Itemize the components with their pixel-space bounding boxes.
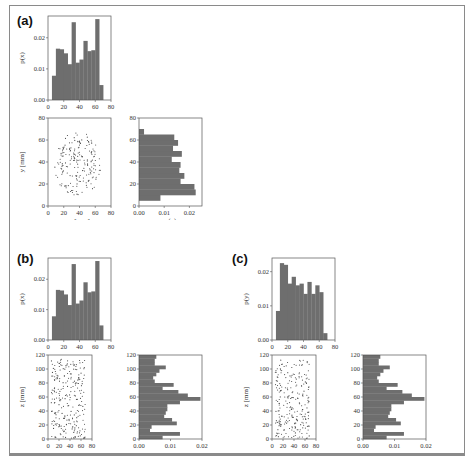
scatter-point [58, 426, 59, 427]
scatter-point [302, 436, 303, 437]
scatter-point [63, 386, 64, 387]
scatter-point [70, 163, 71, 164]
histogram-bar [139, 376, 153, 380]
histogram-bar [363, 397, 424, 401]
scatter-point [62, 152, 63, 153]
scatter-point [86, 187, 87, 188]
scatter-point [56, 414, 57, 415]
x-tick-label: 60 [302, 442, 309, 449]
scatter-point [76, 178, 77, 179]
scatter-point [64, 147, 65, 148]
histogram-bar [363, 422, 401, 426]
scatter-point [74, 137, 75, 138]
scatter-point [301, 405, 302, 406]
y-tick-label: 120 [350, 351, 360, 358]
scatter-point [280, 385, 281, 386]
scatter-point [74, 421, 75, 422]
x-axis-label: p(y) [165, 217, 177, 220]
scatter-point [281, 390, 282, 391]
scatter-point [296, 416, 297, 417]
scatter-point [280, 424, 281, 425]
scatter-point [286, 365, 287, 366]
scatter-point [91, 160, 92, 161]
scatter-point [306, 433, 307, 434]
scatter-point [61, 166, 62, 167]
scatter-point [56, 423, 57, 424]
histogram-bar [139, 173, 184, 179]
scatter-point [92, 160, 93, 161]
histogram-bar [139, 362, 155, 366]
scatter-point [286, 423, 287, 424]
histogram-bar [363, 355, 380, 359]
scatter-point [71, 373, 72, 374]
scatter-point [83, 378, 84, 379]
y-tick-label: 40 [39, 158, 46, 165]
scatter-point [291, 375, 292, 376]
scatter-point [306, 374, 307, 375]
scatter-point [74, 436, 75, 437]
scatter-point [87, 140, 88, 141]
scatter-point [94, 156, 95, 157]
histogram-bar [99, 85, 103, 100]
scatter-point [60, 434, 61, 435]
scatter-point [93, 168, 94, 169]
scatter-point [80, 367, 81, 368]
histogram-bar [139, 397, 200, 401]
scatter-point [67, 386, 68, 387]
plot-area [276, 263, 327, 340]
scatter-point [74, 438, 75, 439]
histogram-pz-c: 0.000.010.02020406080100120p(z) [349, 345, 459, 450]
scatter-point [77, 431, 78, 432]
histogram-bar [363, 383, 398, 387]
scatter-point [308, 389, 309, 390]
scatter-point [291, 376, 292, 377]
scatter-point [299, 360, 300, 361]
scatter-point [304, 374, 305, 375]
histogram-bar [139, 404, 167, 408]
scatter-point [300, 413, 301, 414]
scatter-point [51, 423, 52, 424]
scatter-point [77, 172, 78, 173]
x-tick-label: 40 [67, 442, 74, 449]
y-tick-label: 20 [130, 421, 137, 428]
histogram-bar [139, 425, 152, 429]
y-tick-label: 100 [259, 365, 269, 372]
plot-area [51, 359, 86, 439]
scatter-point [87, 165, 88, 166]
scatter-point [91, 143, 92, 144]
histogram-pz-b: 0.000.010.02020406080100120p(z) [125, 345, 235, 450]
scatter-point [292, 392, 293, 393]
x-tick-label: 0 [270, 442, 273, 449]
scatter-point [297, 392, 298, 393]
scatter-point [303, 418, 304, 419]
scatter-point [80, 181, 81, 182]
scatter-point [77, 160, 78, 161]
scatter-point [59, 366, 60, 367]
scatter-point [308, 379, 309, 380]
histogram-bar [91, 291, 95, 340]
scatter-point [275, 411, 276, 412]
scatter-point [59, 363, 60, 364]
y-tick-label: 60 [39, 393, 46, 400]
y-tick-label: 80 [263, 379, 270, 386]
scatter-point [74, 140, 75, 141]
histogram-bar [363, 429, 374, 433]
scatter-point [300, 424, 301, 425]
scatter-point [64, 426, 65, 427]
y-tick-label: 100 [126, 365, 136, 372]
scatter-point [73, 156, 74, 157]
x-tick-label: 0.00 [133, 442, 144, 449]
scatter-point [80, 398, 81, 399]
scatter-point [64, 145, 65, 146]
scatter-point [59, 400, 60, 401]
histogram-bar [363, 401, 404, 405]
y-tick-label: 0.01 [34, 65, 45, 72]
scatter-point [309, 435, 310, 436]
scatter-point [73, 382, 74, 383]
histogram-bar [363, 415, 388, 419]
scatter-point [85, 404, 86, 405]
scatter-point [94, 154, 95, 155]
scatter-point [299, 431, 300, 432]
scatter-point [57, 375, 58, 376]
scatter-point [283, 430, 284, 431]
